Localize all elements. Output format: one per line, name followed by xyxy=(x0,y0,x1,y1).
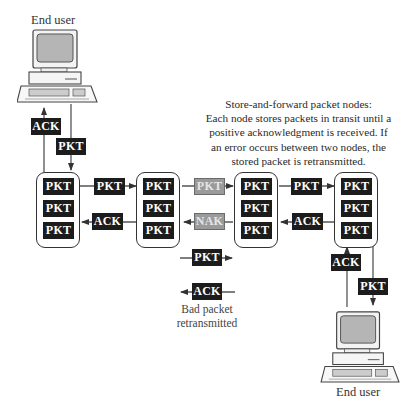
stored-packet: PKT xyxy=(241,200,272,217)
caption-line: stored packet is retransmitted. xyxy=(196,154,401,168)
stored-packet: PKT xyxy=(143,178,174,195)
pkt-tag-n3-n4: PKT xyxy=(291,178,322,195)
store-forward-node-4: PKT PKT PKT xyxy=(334,172,378,248)
stored-packet: PKT xyxy=(341,222,372,239)
stored-packet: PKT xyxy=(241,222,272,239)
stored-packet: PKT xyxy=(43,178,74,195)
end-user-bottom-label: End user xyxy=(336,385,380,400)
store-forward-node-3: PKT PKT PKT xyxy=(234,172,278,248)
caption-line: Each node stores packets in transit unti… xyxy=(196,111,401,125)
ack-tag-n4-n3: ACK xyxy=(292,213,323,230)
stored-packet: PKT xyxy=(43,222,74,239)
stored-packet: PKT xyxy=(143,222,174,239)
stored-packet: PKT xyxy=(341,200,372,217)
caption-line: retransmitted xyxy=(167,316,247,330)
stored-packet: PKT xyxy=(43,200,74,217)
desktop-computer-icon xyxy=(17,28,99,104)
stored-packet: PKT xyxy=(341,178,372,195)
store-forward-node-2: PKT PKT PKT xyxy=(136,172,180,248)
stored-packet: PKT xyxy=(241,178,272,195)
ack-tag-top-user: ACK xyxy=(31,118,61,135)
stored-packet: PKT xyxy=(143,200,174,217)
pkt-tag-bottom-user: PKT xyxy=(358,278,388,295)
store-forward-node-1: PKT PKT PKT xyxy=(36,172,80,248)
store-and-forward-caption: Store-and-forward packet nodes: Each nod… xyxy=(196,97,401,168)
pkt-tag-n1-n2: PKT xyxy=(94,178,125,195)
retransmit-ack-tag: ACK xyxy=(192,283,222,300)
nak-tag-n3-n2: NAK xyxy=(194,213,225,230)
end-user-top-label: End user xyxy=(31,13,75,28)
caption-line: Bad packet xyxy=(167,302,247,316)
retransmit-caption: Bad packet retransmitted xyxy=(167,302,247,330)
caption-line: Store-and-forward packet nodes: xyxy=(196,97,401,111)
ack-tag-n2-n1: ACK xyxy=(92,213,123,230)
pkt-tag-n2-n3-error: PKT xyxy=(194,178,225,195)
caption-line: positive acknowledgment is received. If xyxy=(196,125,401,139)
pkt-tag-top-user: PKT xyxy=(56,138,86,155)
desktop-computer-icon xyxy=(320,310,402,384)
caption-line: an error occurs between two nodes, the xyxy=(196,140,401,154)
retransmit-pkt-tag: PKT xyxy=(192,249,222,266)
ack-tag-bottom-user: ACK xyxy=(331,254,361,271)
